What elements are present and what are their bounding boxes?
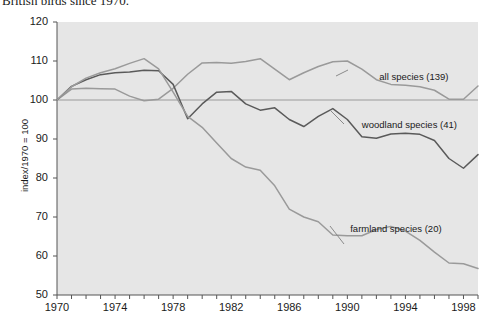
series-label-1: woodland species (41) bbox=[362, 119, 457, 130]
y-tick-label: 60 bbox=[18, 250, 48, 261]
y-axis-label: index/1970 = 100 bbox=[19, 86, 30, 226]
y-tick-label: 110 bbox=[18, 55, 48, 66]
chart-figure: index/1970 = 100 12011010090807060501970… bbox=[0, 0, 490, 326]
plot-background bbox=[57, 22, 478, 295]
y-tick-label: 100 bbox=[18, 94, 48, 105]
y-tick-label: 50 bbox=[18, 289, 48, 300]
y-tick-label: 90 bbox=[18, 133, 48, 144]
x-tick-label: 1978 bbox=[153, 302, 193, 313]
x-tick-label: 1994 bbox=[385, 302, 425, 313]
y-tick-label: 70 bbox=[18, 211, 48, 222]
x-tick-label: 1990 bbox=[327, 302, 367, 313]
x-tick-label: 1998 bbox=[443, 302, 483, 313]
x-tick-label: 1982 bbox=[211, 302, 251, 313]
y-tick-label: 120 bbox=[18, 16, 48, 27]
line-chart-svg bbox=[0, 0, 490, 326]
x-tick-label: 1974 bbox=[95, 302, 135, 313]
series-label-2: farmland species (20) bbox=[350, 223, 441, 234]
x-tick-label: 1986 bbox=[269, 302, 309, 313]
y-tick-label: 80 bbox=[18, 172, 48, 183]
x-tick-label: 1970 bbox=[37, 302, 77, 313]
series-label-0: all species (139) bbox=[379, 71, 448, 82]
